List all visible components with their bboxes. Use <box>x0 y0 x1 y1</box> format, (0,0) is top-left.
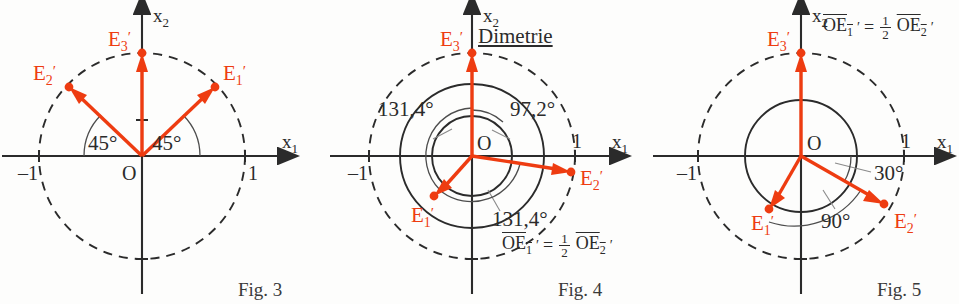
vector-E3 <box>795 49 807 156</box>
vector-E2 <box>472 156 575 176</box>
formula-left-term: OE1 <box>823 15 853 40</box>
formula-right-term: OE2 <box>576 233 606 258</box>
tick-label-plus-one: 1 <box>572 130 582 152</box>
label-E2: E2′ <box>580 166 603 193</box>
label-E3: E3′ <box>440 27 463 54</box>
figure-fig3: x2 x1 –1 1 O 45° 45° E1′ E2′ E3′ Fig. <box>0 0 320 304</box>
tick-label-minus-one: –1 <box>676 162 697 184</box>
formula-right-prime: ′ <box>610 238 613 254</box>
formula-fraction: 1 2 <box>880 14 891 42</box>
formula-right-prime: ′ <box>931 20 934 36</box>
label-E1: E1′ <box>751 211 774 238</box>
label-E3: E3′ <box>108 27 131 54</box>
x1-axis-label: x1 <box>282 131 298 156</box>
label-E3: E3′ <box>767 27 790 54</box>
formula-fraction: 1 2 <box>559 232 570 260</box>
formula-equals: = <box>543 235 553 256</box>
angle-label-left: 45° <box>88 131 117 155</box>
angle-label-30: 30° <box>874 161 903 185</box>
formula-left-prime: ′ <box>857 20 860 36</box>
x1-axis-label: x1 <box>937 131 953 156</box>
formula-equals: = <box>864 17 874 38</box>
fig3-diagram: x2 x1 –1 1 O 45° 45° E1′ E2′ E3′ Fig. <box>0 0 320 304</box>
tick-label-plus-one: 1 <box>901 130 911 152</box>
formula-left-prime: ′ <box>536 238 539 254</box>
figure-sheet: x2 x1 –1 1 O 45° 45° E1′ E2′ E3′ Fig. <box>0 0 959 304</box>
angle-label-upper-right: 97,2° <box>510 97 555 121</box>
label-E2: E2′ <box>33 61 56 88</box>
caption-fig5: Fig. 5 <box>877 279 921 300</box>
angle-arc-right <box>183 115 200 156</box>
angle-label-upper-left: 131,4° <box>378 97 434 121</box>
leader-angle-upper-right <box>492 130 510 139</box>
label-E1: E1′ <box>411 203 434 230</box>
fig5-diagram: x2 x1 –1 1 O 30° 90° E3′ E2′ E1′ Fig. 5 <box>639 0 959 304</box>
tick-label-minus-one: –1 <box>347 162 368 184</box>
x1-axis-label: x1 <box>612 131 628 156</box>
angle-label-right: 45° <box>152 131 181 155</box>
figure-fig4: x2 x1 –1 1 O 131,4° 97,2° 131,4° E3′ E2′… <box>320 0 640 304</box>
vector-E1 <box>765 156 801 213</box>
formula-fig5: OE1′ = 1 2 OE2′ <box>823 14 934 42</box>
origin-label: O <box>807 132 821 154</box>
label-E2: E2′ <box>894 209 917 236</box>
angle-label-lower: 131,4° <box>492 207 548 231</box>
leader-angle-upper-left <box>433 129 452 139</box>
formula-left-term: OE1 <box>502 233 532 258</box>
angle-label-90: 90° <box>821 209 850 233</box>
angle-arc-lower <box>442 164 520 202</box>
vector-E1 <box>430 156 472 200</box>
formula-fig4: OE1′ = 1 2 OE2′ <box>502 232 613 260</box>
caption-fig3: Fig. 3 <box>238 279 282 300</box>
tick-label-minus-one: –1 <box>17 162 38 184</box>
caption-fig4: Fig. 4 <box>558 279 603 300</box>
figure-title-dimetrie: Dimetrie <box>478 24 553 49</box>
formula-right-term: OE2 <box>897 15 927 40</box>
figure-fig5: x2 x1 –1 1 O 30° 90° E3′ E2′ E1′ Fig. 5 … <box>639 0 959 304</box>
vector-E3 <box>136 49 148 156</box>
leader-angle-30 <box>835 163 871 172</box>
x2-axis-label: x2 <box>153 5 169 30</box>
angle-arc-30 <box>844 156 851 182</box>
tick-label-plus-one: 1 <box>248 162 258 184</box>
label-E1: E1′ <box>223 61 246 88</box>
origin-label: O <box>477 132 491 154</box>
origin-label: O <box>122 162 136 184</box>
